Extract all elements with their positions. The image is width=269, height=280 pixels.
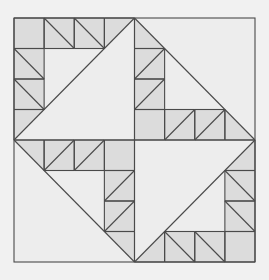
shaded-square: [14, 18, 44, 49]
quilt-block-diagram: [0, 0, 269, 280]
shaded-square: [225, 232, 255, 263]
shaded-square: [104, 140, 134, 171]
shaded-square: [135, 110, 165, 141]
